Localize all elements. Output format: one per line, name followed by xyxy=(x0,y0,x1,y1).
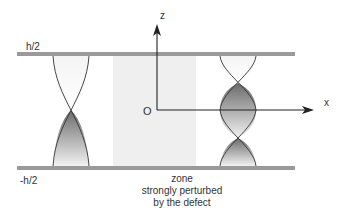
bottom-plate xyxy=(17,166,295,170)
bottom-plate-label: -h/2 xyxy=(20,175,37,186)
diagram: h/2 -h/2 z x O zone strongly perturbed b… xyxy=(0,0,345,217)
top-plate-label: h/2 xyxy=(26,41,40,52)
perturbed-zone xyxy=(113,56,196,167)
top-plate xyxy=(17,52,295,56)
z-axis-label: z xyxy=(160,10,165,21)
x-axis-label: x xyxy=(324,97,329,108)
origin-label: O xyxy=(143,106,152,117)
caption-line-2: strongly perturbed xyxy=(102,185,262,197)
zone-caption: zone strongly perturbed by the defect xyxy=(102,173,262,209)
caption-line-3: by the defect xyxy=(102,197,262,209)
right-helix xyxy=(220,56,256,166)
caption-line-1: zone xyxy=(102,173,262,185)
left-helix xyxy=(53,56,89,166)
